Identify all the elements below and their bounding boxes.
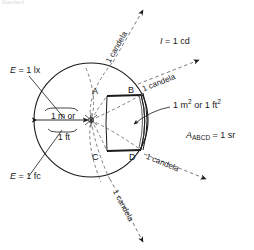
vertex-label-c: C	[92, 152, 99, 162]
solid-angle-value: = 1 sr	[213, 130, 236, 140]
lux-value: = 1 lx	[19, 65, 41, 75]
label-patch-area: 1 m2 or 1 ft2	[173, 101, 221, 110]
label-illuminance-footcandle: E = 1 fc	[10, 172, 41, 181]
lux-symbol: E	[10, 65, 16, 75]
label-solid-angle: AABCD = 1 sr	[186, 131, 235, 140]
footcandle-symbol: E	[10, 171, 16, 181]
footcandle-value: = 1 fc	[19, 171, 41, 181]
area-prefix: 1 m	[173, 100, 188, 110]
vertex-label-a: A	[92, 86, 98, 96]
vertex-label-b: B	[128, 85, 134, 95]
label-illuminance-lux: E = 1 lx	[10, 66, 40, 75]
intensity-value: = 1 cd	[165, 36, 190, 46]
dimension-imperial: 1 ft	[48, 132, 80, 142]
cone-edges	[91, 95, 141, 151]
vertex-label-d: D	[129, 152, 136, 162]
area-middle: or 1 ft	[192, 100, 218, 110]
dimension-metric: 1 m or	[44, 111, 82, 121]
area-exponent-imperial: 2	[217, 98, 221, 105]
intensity-symbol: I	[160, 36, 163, 46]
solid-angle-subscript: ABCD	[192, 134, 210, 141]
area-leader-line	[134, 107, 170, 124]
patch-arc-inner2	[139, 95, 143, 148]
label-luminous-intensity: I = 1 cd	[160, 37, 190, 46]
patch-abcd	[106, 95, 145, 151]
